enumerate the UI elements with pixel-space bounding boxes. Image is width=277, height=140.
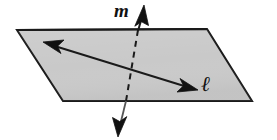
plane-top-edge-overdraw <box>17 29 207 30</box>
line-m-up-arrowhead-icon <box>135 5 149 26</box>
label-line-l: ℓ <box>201 74 210 95</box>
label-line-m: m <box>114 1 129 20</box>
figure-canvas <box>0 0 277 140</box>
line-m-down-arrowhead-icon <box>113 117 127 137</box>
geometry-figure: m ℓ <box>0 0 277 140</box>
plane-shading-overlay <box>17 29 252 101</box>
